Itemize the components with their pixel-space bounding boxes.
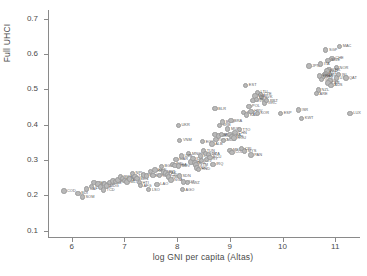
data-point [176, 163, 181, 168]
data-point [179, 153, 184, 158]
x-axis-title: log GNI per capita (Altas) [48, 252, 358, 262]
data-point [232, 130, 237, 135]
y-tick-label: 0.5 [14, 84, 38, 93]
data-point-label: BLR [218, 107, 226, 111]
data-point-label: ESP [284, 111, 292, 115]
plot-area [48, 10, 359, 236]
data-point [152, 167, 157, 172]
data-point-label: SWE [331, 58, 340, 62]
x-tick-label: 7 [114, 242, 134, 251]
data-point [168, 177, 173, 182]
y-tick-label: 0.4 [14, 120, 38, 129]
data-point-label: SGP [329, 48, 337, 52]
data-point [246, 104, 251, 109]
data-point-label: SWZ [191, 181, 200, 185]
data-point-label: PRT [270, 99, 278, 103]
data-point [229, 150, 234, 155]
data-point [177, 173, 182, 178]
data-point-label: ECU [213, 155, 221, 159]
data-point [228, 118, 233, 123]
data-point [196, 167, 201, 172]
data-point [176, 123, 181, 128]
data-point [61, 188, 66, 193]
y-tick-label: 0.3 [14, 155, 38, 164]
data-point-label: LSO [152, 188, 160, 192]
data-point [210, 162, 215, 167]
data-point-label: AUS [334, 83, 342, 87]
data-point-label: AGO [186, 188, 195, 192]
data-point-label: LAO [160, 182, 168, 186]
data-point [255, 111, 260, 116]
x-tick-label: 8 [167, 242, 187, 251]
data-point-label: EST [249, 83, 257, 87]
data-point-label: POL [252, 104, 260, 108]
data-point [80, 194, 85, 199]
data-point-label: KWT [305, 116, 314, 120]
data-point-label: IRQ [216, 162, 223, 166]
x-tick-label: 10 [273, 242, 293, 251]
y-tick-label: 0.2 [14, 190, 38, 199]
scatter-chart-figure: Full UHCI log GNI per capita (Altas) 0.1… [0, 0, 367, 276]
data-point [254, 97, 259, 102]
data-point-label: VNM [183, 138, 192, 142]
data-point-label: BRA [234, 119, 242, 123]
data-point-label: CHN [238, 131, 247, 135]
data-point [220, 119, 225, 124]
data-point [248, 152, 253, 157]
y-tick-label: 0.7 [14, 14, 38, 23]
data-point [138, 183, 143, 188]
x-tick-label: 9 [220, 242, 240, 251]
data-point [154, 182, 159, 187]
data-point-label: SDN [182, 174, 190, 178]
y-tick-label: 0.6 [14, 49, 38, 58]
data-point-label: ROU [237, 136, 246, 140]
data-point-label: UKR [181, 123, 189, 127]
data-point-label: NOR [340, 66, 349, 70]
data-point [209, 141, 214, 146]
x-axis-line [48, 237, 360, 238]
data-point-label: CRI [245, 147, 252, 151]
x-tick-label: 6 [62, 242, 82, 251]
data-point-label: SOM [85, 195, 94, 199]
data-point [248, 109, 253, 114]
data-point [231, 135, 236, 140]
data-point [207, 155, 212, 160]
data-point-label: KOR [260, 111, 269, 115]
data-point-label: QAT [349, 76, 357, 80]
data-point [318, 61, 323, 66]
data-point-label: MDV [181, 164, 190, 168]
data-point [144, 173, 149, 178]
data-point [296, 107, 301, 112]
data-point-label: MAC [343, 44, 352, 48]
data-point [159, 164, 164, 169]
data-point [173, 157, 178, 162]
data-point-label: ITA [324, 62, 330, 66]
data-point-label: TCD [107, 188, 115, 192]
data-point-label: ARE [320, 92, 328, 96]
y-tick-label: 0.1 [14, 226, 38, 235]
data-point-label: HND [201, 167, 210, 171]
data-point [150, 173, 155, 178]
data-point-label: LUX [353, 111, 361, 115]
data-point-label: PAN [254, 153, 262, 157]
data-point [347, 111, 352, 116]
data-point [306, 63, 311, 68]
data-point-label: ISR [302, 108, 309, 112]
data-point [343, 75, 348, 80]
data-point [212, 106, 217, 111]
y-axis-title: Full UHCI [2, 0, 12, 88]
x-tick-label: 11 [325, 242, 345, 251]
